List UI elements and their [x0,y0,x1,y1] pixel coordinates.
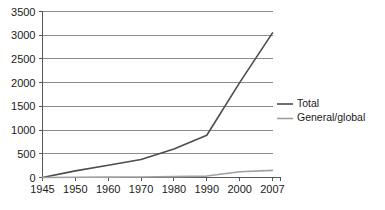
x-axis-tick-label: 1960 [96,183,120,195]
y-axis-tick-label: 3000 [11,29,35,41]
y-axis-tick-label: 3500 [11,6,35,18]
x-axis-ticks: 19451950196019701980199020002007 [30,178,284,195]
legend: TotalGeneral/global [277,97,365,124]
series-line-general-global [43,170,273,177]
x-axis-tick-label: 2000 [227,183,251,195]
legend-label: Total [297,97,319,109]
chart-canvas: 0500100015002000250030003500194519501960… [0,0,385,210]
series-group [43,33,273,178]
x-axis-tick-label: 1945 [30,183,54,195]
y-axis-tick-label: 1000 [11,124,35,136]
x-axis-tick-label: 1990 [195,183,219,195]
x-axis-tick-label: 1950 [63,183,87,195]
y-axis-tick-label: 2500 [11,53,35,65]
x-axis-tick-label: 2007 [260,183,284,195]
y-axis-tick-label: 2000 [11,77,35,89]
legend-label: General/global [297,111,365,123]
y-axis-tick-label: 500 [17,148,35,160]
y-gridlines: 0500100015002000250030003500 [11,6,272,184]
y-axis-tick-label: 1500 [11,100,35,112]
series-line-total [43,33,273,178]
x-axis-tick-label: 1980 [162,183,186,195]
x-axis-tick-label: 1970 [129,183,153,195]
line-chart: 0500100015002000250030003500194519501960… [0,0,385,210]
